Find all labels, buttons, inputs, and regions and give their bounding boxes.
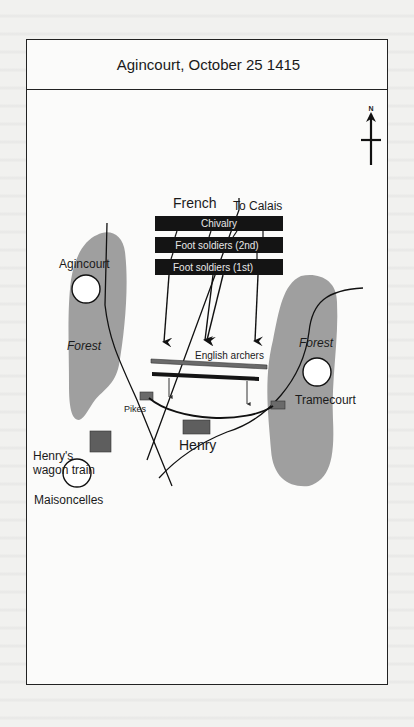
label-wagon-train-1: Henry's (33, 449, 73, 463)
agincourt-village-icon (72, 275, 100, 303)
map-figure: Agincourt, October 25 1415 (26, 39, 388, 685)
label-foot-1st: Foot soldiers (1st) (173, 262, 253, 273)
label-henry: Henry (179, 437, 216, 453)
tramecourt-village-icon (303, 358, 331, 386)
english-men-at-arms-line (152, 372, 259, 381)
label-tramecourt: Tramecourt (295, 393, 357, 407)
svg-text:N: N (368, 105, 373, 112)
label-french: French (173, 195, 217, 211)
label-chivalry: Chivalry (201, 218, 237, 229)
henry-unit (183, 420, 210, 434)
label-agincourt: Agincourt (59, 257, 110, 271)
label-pikes: Pikes (124, 404, 147, 414)
label-english-archers: English archers (195, 350, 264, 361)
north-compass-icon: N (361, 105, 381, 165)
label-west-forest: Forest (67, 339, 102, 353)
label-east-forest: Forest (299, 336, 334, 350)
label-foot-2nd: Foot soldiers (2nd) (175, 240, 258, 251)
label-maisoncelles: Maisoncelles (34, 493, 103, 507)
battle-map: N French To Calais Chivalry Foot soldier… (27, 40, 389, 686)
english-pike-arc (149, 398, 273, 418)
label-wagon-train-2: wagon train (32, 463, 95, 477)
label-to-calais: To Calais (233, 199, 282, 213)
pikes-right-unit (271, 401, 285, 409)
wagon-train-unit (90, 431, 111, 452)
